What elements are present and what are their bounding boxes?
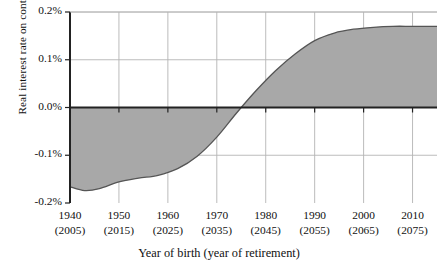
x-axis-title: Year of birth (year of retirement) <box>0 246 438 261</box>
y-tick-label: 0.0% <box>2 100 62 112</box>
y-tick-label: -0.1% <box>2 147 62 159</box>
x-tick-label: 2010(2075) <box>382 209 438 236</box>
area-fill <box>70 26 437 190</box>
y-tick-label: 0.2% <box>2 4 62 16</box>
y-axis-title: Real interest rate on contributions <box>12 0 30 132</box>
chart-figure: Real interest rate on contributions Year… <box>0 0 438 267</box>
y-tick-label: 0.1% <box>2 52 62 64</box>
y-tick-label: -0.2% <box>2 195 62 207</box>
x-tick-retirement-year: (2075) <box>382 224 438 236</box>
x-tick-birth-year: 2010 <box>382 209 438 221</box>
